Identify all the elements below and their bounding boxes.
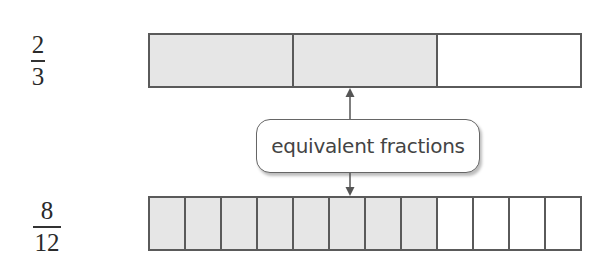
unshaded-part [438,198,474,249]
numerator: 2 [27,32,49,58]
shaded-part [402,198,438,249]
unshaded-part [438,35,580,86]
callout-label: equivalent fractions [271,134,464,158]
shaded-part [294,198,330,249]
equivalent-fractions-callout: equivalent fractions [256,119,480,173]
unshaded-part [546,198,580,249]
shaded-part [294,35,438,86]
denominator: 3 [27,64,49,90]
numerator: 8 [30,198,64,224]
fraction-strip-thirds [148,33,582,88]
unshaded-part [474,198,510,249]
unshaded-part [510,198,546,249]
shaded-part [186,198,222,249]
fraction-two-thirds: 2 3 [27,32,49,90]
denominator: 12 [30,230,64,256]
fraction-bar [31,60,45,62]
shaded-part [258,198,294,249]
shaded-part [366,198,402,249]
shaded-part [150,35,294,86]
shaded-part [150,198,186,249]
fraction-eight-twelfths: 8 12 [30,198,64,256]
shaded-part [222,198,258,249]
shaded-part [330,198,366,249]
fraction-strip-twelfths [148,196,582,251]
fraction-bar [33,226,61,228]
arrow-up-icon [344,88,356,120]
arrow-down-icon [344,173,356,197]
